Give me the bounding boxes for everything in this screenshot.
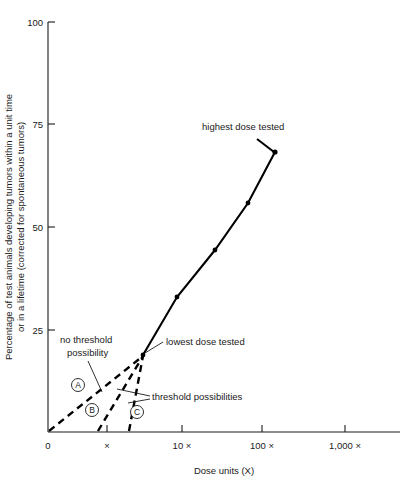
- curve-label-a-text: A: [75, 380, 81, 390]
- x-axis-ticks: [107, 425, 345, 432]
- chart-canvas: 100 75 50 25 0 × 10 × 100 × 1,000 × Dose…: [0, 0, 419, 484]
- annotation-no-threshold-leader: [88, 361, 102, 392]
- annotation-lowest-dose-label: lowest dose tested: [166, 336, 245, 347]
- x-axis-title: Dose units (X): [194, 465, 254, 476]
- annotation-lowest-dose-tested: lowest dose tested: [145, 336, 245, 353]
- annotation-threshold-leader-c: [128, 399, 150, 403]
- data-point-4: [246, 201, 251, 206]
- y-axis-ticks: [48, 22, 55, 330]
- annotation-no-threshold-line2: possibility: [67, 347, 108, 358]
- x-tick-label-0: 0: [45, 440, 50, 451]
- annotation-no-threshold-possibility: no threshold possibility: [60, 334, 112, 392]
- x-tick-label-100x: 100 ×: [250, 440, 274, 451]
- y-axis-title-line1: Percentage of test animals developing tu…: [3, 94, 14, 360]
- x-tick-label-1000x: 1,000 ×: [329, 440, 361, 451]
- y-tick-label-25: 25: [32, 325, 43, 336]
- data-point-lowest-dose: [141, 353, 146, 358]
- extrapolation-lines: [49, 356, 143, 431]
- extrapolation-line-a-no-threshold: [49, 356, 143, 431]
- annotation-threshold-possibilities-label: threshold possibilities: [152, 391, 243, 402]
- curve-label-c: C: [131, 406, 144, 419]
- data-line-observed: [143, 152, 275, 355]
- curve-label-a: A: [72, 379, 85, 392]
- curve-label-b-text: B: [89, 405, 95, 415]
- curve-label-b: B: [86, 404, 99, 417]
- annotation-highest-dose-tested: highest dose tested: [202, 121, 284, 152]
- y-tick-label-100: 100: [27, 17, 43, 28]
- y-axis-title-line2: or in a lifetime (corrected for spontane…: [15, 122, 26, 332]
- x-tick-label-10x: 10 ×: [173, 440, 192, 451]
- x-axis-tick-labels: 0 × 10 × 100 × 1,000 ×: [45, 440, 361, 451]
- data-series-observed: [141, 149, 278, 357]
- annotation-highest-dose-leader: [257, 139, 274, 152]
- data-point-2: [175, 295, 180, 300]
- y-axis-tick-labels: 100 75 50 25: [27, 17, 43, 336]
- y-tick-label-75: 75: [32, 119, 43, 130]
- y-tick-label-50: 50: [32, 222, 43, 233]
- annotation-threshold-leader-b: [117, 389, 150, 396]
- annotation-no-threshold-line1: no threshold: [60, 334, 112, 345]
- dose-response-figure: 100 75 50 25 0 × 10 × 100 × 1,000 × Dose…: [0, 0, 419, 484]
- annotation-highest-dose-label: highest dose tested: [202, 121, 284, 132]
- data-point-3: [213, 248, 218, 253]
- x-tick-label-1x: ×: [104, 440, 110, 451]
- axes-group: [48, 22, 400, 432]
- curve-label-c-text: C: [134, 407, 140, 417]
